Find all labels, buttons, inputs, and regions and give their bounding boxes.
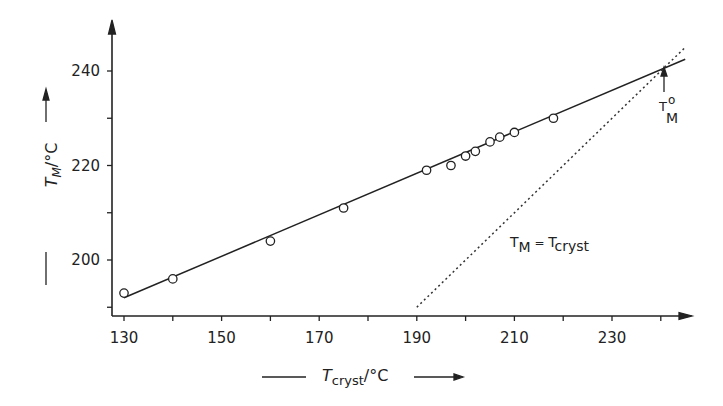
eq-T1: T — [509, 234, 519, 250]
axes — [112, 28, 684, 316]
svg-text:TM = Tcryst: TM = Tcryst — [509, 234, 590, 255]
data-point — [510, 128, 518, 136]
x-axis-label-sub: cryst — [332, 373, 364, 388]
data-point — [471, 147, 479, 155]
data-point — [447, 161, 455, 169]
data-point — [266, 237, 274, 245]
data-points — [120, 114, 558, 297]
data-point — [169, 275, 177, 283]
x-tick-label: 170 — [305, 329, 334, 347]
eq-sub2: cryst — [555, 238, 590, 254]
x-axis-label-unit: /°C — [364, 366, 389, 385]
svg-text:Tcryst/°C: Tcryst/°C — [322, 366, 388, 388]
x-tick-label: 210 — [500, 329, 529, 347]
plot-lines — [124, 47, 685, 307]
tm0-sub: M — [666, 110, 678, 126]
y-axis-arrowhead — [109, 20, 116, 34]
x-axis-arrowhead — [679, 313, 692, 320]
fit-line — [124, 59, 685, 298]
data-point — [422, 166, 430, 174]
y-tick-label: 240 — [71, 62, 100, 80]
data-point — [339, 204, 347, 212]
x-tick-label: 150 — [207, 329, 236, 347]
x-tick-label: 130 — [110, 329, 139, 347]
data-point — [120, 289, 128, 297]
svg-text:TM/°C: TM/°C — [42, 143, 64, 188]
identity-line-label: TM = Tcryst — [509, 234, 590, 255]
tick-marks — [107, 71, 661, 321]
y-tick-label: 200 — [71, 251, 100, 269]
eq-equals: = — [531, 236, 549, 250]
tm0-label: T o M — [658, 93, 678, 126]
x-tick-label: 230 — [598, 329, 627, 347]
y-axis-label-unit: /°C — [42, 143, 61, 168]
x-tick-label: 190 — [402, 329, 431, 347]
y-axis-label: TM/°C — [42, 143, 64, 188]
tm0-sup: o — [668, 93, 675, 107]
data-point — [461, 152, 469, 160]
identity-line — [417, 47, 685, 307]
y-label-arrowhead — [43, 89, 49, 100]
x-axis-label: Tcryst/°C — [322, 366, 388, 388]
chart: 130150170190210230200220240 TM/°C Tcryst… — [0, 0, 723, 406]
y-axis-label-sub: M — [50, 167, 64, 178]
data-point — [496, 133, 504, 141]
x-label-arrowhead — [454, 374, 463, 380]
data-point — [486, 138, 494, 146]
y-tick-label: 220 — [71, 157, 100, 175]
eq-sub1: M — [519, 239, 531, 255]
data-point — [549, 114, 557, 122]
tick-labels: 130150170190210230200220240 — [71, 62, 626, 347]
axis-arrows — [43, 20, 692, 380]
